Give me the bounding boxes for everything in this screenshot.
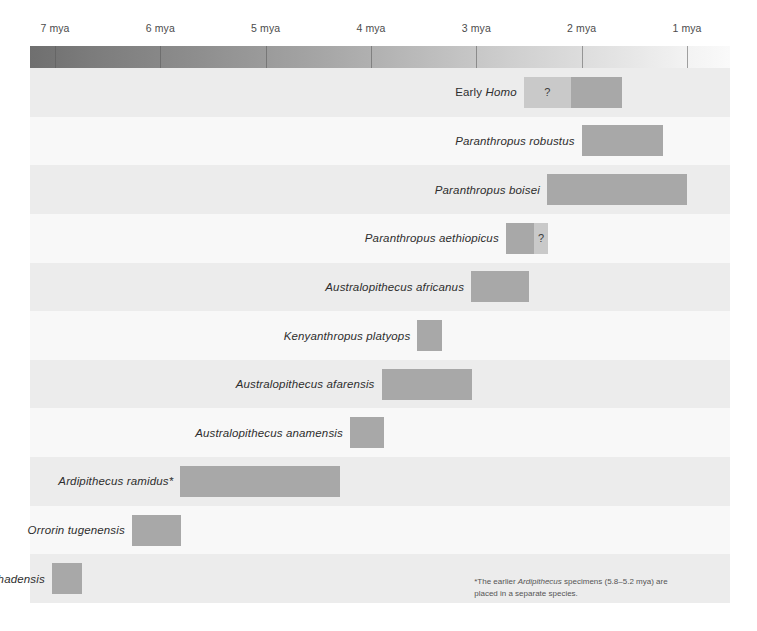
species-label: Paranthropus aethiopicus	[365, 232, 499, 244]
uncertainty-question-mark: ?	[538, 232, 544, 244]
range-bar	[52, 563, 83, 594]
x-axis-tick-label-3mya: 3 mya	[462, 22, 491, 34]
gradient-tick-6mya	[160, 46, 161, 68]
range-bar	[547, 174, 687, 205]
range-bar	[506, 223, 534, 254]
gradient-tick-7mya	[55, 46, 56, 68]
chart-plot-area: ?Early HomoParanthropus robustusParanthr…	[30, 68, 730, 603]
species-label: Orrorin tugenensis	[28, 524, 125, 536]
species-label: Sahelanthropus tchadensis	[0, 573, 45, 585]
species-label-prefix: Early	[455, 86, 485, 98]
footnote-genus-name: Ardipithecus	[518, 577, 562, 586]
range-bar	[350, 417, 384, 448]
species-label-binomial: Homo	[485, 86, 516, 98]
hominin-timeline-chart: 7 mya6 mya5 mya4 mya3 mya2 mya1 mya ?Ear…	[0, 0, 757, 631]
species-label: Paranthropus robustus	[455, 135, 575, 147]
x-axis-tick-label-1mya: 1 mya	[672, 22, 701, 34]
species-label: Paranthropus boisei	[435, 184, 540, 196]
gradient-tick-4mya	[371, 46, 372, 68]
x-axis-tick-labels: 7 mya6 mya5 mya4 mya3 mya2 mya1 mya	[0, 22, 757, 38]
gradient-tick-2mya	[582, 46, 583, 68]
range-bar	[132, 515, 182, 546]
species-label: Australopithecus afarensis	[236, 378, 375, 390]
range-bar	[571, 77, 622, 108]
time-gradient-bar	[30, 46, 730, 68]
x-axis-tick-label-6mya: 6 mya	[146, 22, 175, 34]
range-bar	[382, 369, 473, 400]
range-bar	[417, 320, 441, 351]
ardipithecus-footnote: *The earlier Ardipithecus specimens (5.8…	[474, 576, 689, 599]
x-axis-tick-label-5mya: 5 mya	[251, 22, 280, 34]
x-axis-tick-label-2mya: 2 mya	[567, 22, 596, 34]
timeline-row	[30, 68, 730, 117]
gradient-tick-5mya	[266, 46, 267, 68]
gradient-tick-1mya	[687, 46, 688, 68]
x-axis-tick-label-7mya: 7 mya	[40, 22, 69, 34]
species-label: Australopithecus africanus	[325, 281, 464, 293]
footnote-text-before: *The earlier	[474, 577, 518, 586]
species-label: Ardipithecus ramidus*	[58, 475, 173, 487]
uncertainty-question-mark: ?	[544, 86, 550, 98]
range-bar	[582, 125, 663, 156]
species-label: Kenyanthropus platyops	[284, 330, 411, 342]
gradient-tick-3mya	[476, 46, 477, 68]
species-label: Australopithecus anamensis	[195, 427, 343, 439]
range-bar	[471, 271, 529, 302]
range-bar	[180, 466, 340, 497]
species-label: Early Homo	[455, 86, 517, 98]
timeline-row	[30, 360, 730, 409]
x-axis-tick-label-4mya: 4 mya	[356, 22, 385, 34]
